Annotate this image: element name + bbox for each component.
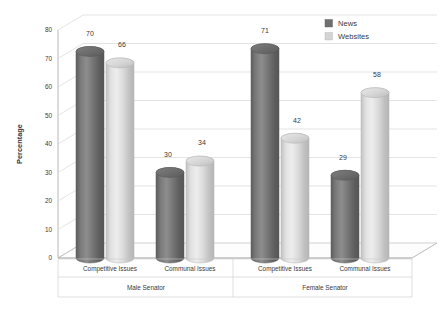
category-label-female-communal: Communal Issues bbox=[339, 265, 390, 272]
cylinder-top bbox=[106, 58, 134, 68]
cylinder-top bbox=[281, 133, 309, 143]
value-label-websites-female-communal: 58 bbox=[373, 71, 381, 78]
cylinder-body bbox=[251, 44, 279, 263]
gridline-70 bbox=[58, 44, 437, 59]
y-tick-20: 20 bbox=[45, 197, 53, 204]
x-axis-labels: Competitive Issues Communal Issues Compe… bbox=[58, 259, 412, 297]
cylinder-body bbox=[281, 133, 309, 263]
cylinder-body bbox=[76, 47, 104, 264]
legend-swatch-news bbox=[325, 20, 333, 28]
category-label-female-competitive: Competitive Issues bbox=[258, 265, 312, 273]
grouped-cylinder-bar-chart: 80 70 60 50 40 30 20 10 0 Percentage bbox=[0, 0, 440, 311]
y-tick-50: 50 bbox=[45, 112, 53, 119]
category-label-male-competitive: Competitive Issues bbox=[83, 265, 137, 273]
cylinder-body bbox=[361, 88, 389, 263]
value-label-websites-male-communal: 34 bbox=[198, 139, 206, 146]
value-label-news-male-communal: 30 bbox=[164, 151, 172, 158]
y-tick-30: 30 bbox=[45, 169, 53, 176]
y-tick-10: 10 bbox=[45, 226, 53, 233]
legend-label-websites: Websites bbox=[338, 32, 369, 41]
group-label-female-senator: Female Senator bbox=[302, 284, 348, 291]
bar-group-female-competitive bbox=[251, 44, 309, 263]
group-label-male-senator: Male Senator bbox=[127, 284, 166, 291]
gridline-80 bbox=[58, 15, 437, 30]
cylinder-body bbox=[156, 168, 184, 264]
legend-item-news[interactable]: News bbox=[325, 19, 357, 28]
y-tick-60: 60 bbox=[45, 83, 53, 90]
bar-news-female-communal[interactable] bbox=[331, 170, 359, 263]
value-label-news-female-communal: 29 bbox=[339, 154, 347, 161]
cylinder-top bbox=[186, 156, 214, 166]
y-tick-70: 70 bbox=[45, 55, 53, 62]
y-axis-tick-labels: 80 70 60 50 40 30 20 10 0 bbox=[45, 26, 53, 261]
bar-websites-male-competitive[interactable] bbox=[106, 58, 134, 263]
bar-news-male-communal[interactable] bbox=[156, 168, 184, 264]
value-label-websites-male-competitive: 66 bbox=[118, 41, 126, 48]
y-tick-40: 40 bbox=[45, 140, 53, 147]
cylinder-body bbox=[186, 156, 214, 263]
cylinder-body bbox=[331, 170, 359, 263]
chart-container: 80 70 60 50 40 30 20 10 0 Percentage bbox=[0, 0, 440, 311]
cylinder-top bbox=[76, 47, 104, 57]
bar-news-male-competitive[interactable] bbox=[76, 47, 104, 264]
cylinder-top bbox=[156, 168, 184, 178]
y-axis-title: Percentage bbox=[15, 124, 24, 164]
chart-legend: News Websites bbox=[325, 19, 369, 41]
legend-item-websites[interactable]: Websites bbox=[325, 32, 369, 41]
legend-swatch-websites bbox=[325, 33, 333, 41]
cylinder-top bbox=[251, 44, 279, 54]
value-label-websites-female-competitive: 42 bbox=[293, 117, 301, 124]
bar-group-male-competitive bbox=[76, 47, 134, 264]
value-label-news-female-competitive: 71 bbox=[261, 27, 269, 34]
bar-group-female-communal bbox=[331, 88, 389, 263]
cylinder-top bbox=[331, 170, 359, 180]
bar-news-female-competitive[interactable] bbox=[251, 44, 279, 263]
y-tick-0: 0 bbox=[48, 254, 52, 261]
y-tick-80: 80 bbox=[45, 26, 53, 33]
bar-websites-male-communal[interactable] bbox=[186, 156, 214, 263]
category-label-male-communal: Communal Issues bbox=[164, 265, 215, 272]
bar-websites-female-competitive[interactable] bbox=[281, 133, 309, 263]
bar-websites-female-communal[interactable] bbox=[361, 88, 389, 263]
legend-label-news: News bbox=[338, 19, 357, 28]
cylinder-body bbox=[106, 58, 134, 263]
value-label-news-male-competitive: 70 bbox=[86, 30, 94, 37]
cylinder-top bbox=[361, 88, 389, 98]
